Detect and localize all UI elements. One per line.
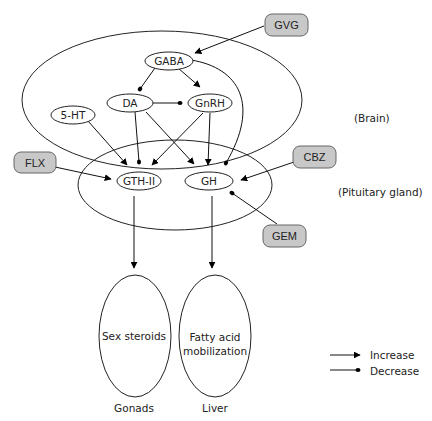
svg-text:Fatty acid: Fatty acid bbox=[189, 331, 240, 343]
svg-text:5-HT: 5-HT bbox=[61, 109, 86, 121]
svg-text:Liver: Liver bbox=[202, 402, 228, 414]
node-da: DA bbox=[107, 94, 153, 112]
edge-gnrh-gth bbox=[152, 113, 203, 165]
legend: Increase Decrease bbox=[330, 349, 419, 377]
edge-gnrh-gh bbox=[208, 113, 210, 165]
legend-increase: Increase bbox=[370, 349, 414, 361]
edge-da-gth bbox=[135, 112, 139, 162]
svg-text:GEM: GEM bbox=[272, 230, 297, 242]
svg-text:Sex steroids: Sex steroids bbox=[102, 330, 166, 342]
svg-text:FLX: FLX bbox=[25, 157, 46, 169]
edge-gvg-gaba bbox=[195, 26, 264, 53]
drug-gem: GEM bbox=[263, 225, 306, 247]
edge-cbz-gh bbox=[241, 161, 297, 180]
drug-gvg: GVG bbox=[265, 14, 308, 36]
edge-da-gh bbox=[146, 112, 194, 164]
node-gh: GH bbox=[185, 172, 233, 190]
svg-text:GABA: GABA bbox=[154, 55, 185, 67]
svg-text:CBZ: CBZ bbox=[304, 151, 326, 163]
target-gonads: Sex steroids Gonads bbox=[99, 275, 171, 414]
svg-text:DA: DA bbox=[122, 97, 138, 109]
node-5ht: 5-HT bbox=[51, 106, 95, 124]
edge-gaba-gnrh bbox=[178, 68, 200, 87]
pituitary-label: (Pituitary gland) bbox=[338, 186, 423, 198]
edge-flx-gth bbox=[55, 167, 111, 179]
node-gnrh: GnRH bbox=[188, 94, 232, 112]
svg-text:GnRH: GnRH bbox=[195, 97, 225, 109]
legend-decrease: Decrease bbox=[370, 365, 419, 377]
svg-text:GH: GH bbox=[201, 175, 217, 187]
svg-text:Gonads: Gonads bbox=[114, 402, 154, 414]
svg-text:mobilization: mobilization bbox=[183, 345, 247, 357]
edge-5ht-gth bbox=[88, 121, 127, 165]
drug-flx: FLX bbox=[14, 152, 56, 173]
svg-text:GTH-II: GTH-II bbox=[123, 175, 155, 187]
drug-cbz: CBZ bbox=[293, 146, 336, 168]
brain-label: (Brain) bbox=[354, 112, 390, 124]
node-gaba: GABA bbox=[145, 52, 193, 70]
node-gth-ii: GTH-II bbox=[117, 172, 161, 190]
neuroendocrine-diagram: (Brain) (Pituitary gland) bbox=[0, 0, 432, 421]
svg-text:GVG: GVG bbox=[274, 19, 298, 31]
target-liver: Fatty acid mobilization Liver bbox=[179, 275, 251, 414]
edge-gaba-da bbox=[140, 68, 155, 89]
